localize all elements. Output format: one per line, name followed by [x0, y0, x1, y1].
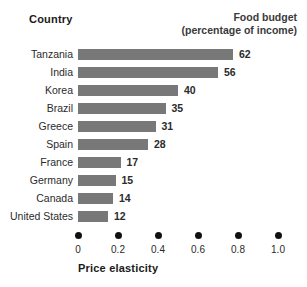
bar-row: Brazil35	[0, 102, 307, 120]
bar	[78, 85, 178, 96]
bar-row: Greece31	[0, 120, 307, 138]
bar-value-label: 62	[239, 48, 251, 61]
bar-row-label: Spain	[0, 138, 73, 151]
bar	[78, 193, 113, 204]
bar-value-label: 31	[162, 120, 174, 133]
axis-tick-dot	[115, 232, 122, 239]
bar	[78, 175, 116, 186]
bar-row-label: Tanzania	[0, 48, 73, 61]
bar-row: India56	[0, 66, 307, 84]
bar-track: 31	[78, 121, 307, 133]
bar-value-label: 28	[154, 138, 166, 151]
column-header-food-budget: Food budget (percentage of income)	[122, 11, 297, 37]
bar	[78, 157, 121, 168]
bar	[78, 49, 233, 60]
bar-track: 28	[78, 139, 307, 151]
bar-track: 17	[78, 157, 307, 169]
bar-value-label: 14	[119, 192, 131, 205]
bar	[78, 121, 156, 132]
bar-row-label: Brazil	[0, 102, 73, 115]
bar-track: 62	[78, 49, 307, 61]
axis-tick-label: 0.6	[191, 244, 205, 256]
bar-track: 12	[78, 211, 307, 223]
bar	[78, 211, 108, 222]
axis-tick-dot	[275, 232, 282, 239]
axis-tick-dot	[235, 232, 242, 239]
bar-row-label: France	[0, 156, 73, 169]
bar-row: Spain28	[0, 138, 307, 156]
x-axis-title: Price elasticity	[78, 262, 158, 274]
axis-tick-dot	[155, 232, 162, 239]
bar-row: France17	[0, 156, 307, 174]
bar-track: 15	[78, 175, 307, 187]
bar-rows: Tanzania62India56Korea40Brazil35Greece31…	[0, 48, 307, 228]
axis-tick-dot	[75, 232, 82, 239]
axis-tick-label: 0	[75, 244, 81, 256]
bar-track: 14	[78, 193, 307, 205]
bar-value-label: 35	[172, 102, 184, 115]
bar-row: Korea40	[0, 84, 307, 102]
bar-track: 40	[78, 85, 307, 97]
food-budget-chart: Country Food budget (percentage of incom…	[0, 0, 307, 287]
bar-row: United States12	[0, 210, 307, 228]
bar-value-label: 12	[114, 210, 126, 223]
bar-row-label: Germany	[0, 174, 73, 187]
bar	[78, 67, 218, 78]
column-header-country: Country	[29, 13, 73, 25]
bar-row-label: Korea	[0, 84, 73, 97]
bar-track: 56	[78, 67, 307, 79]
axis-tick-label: 1.0	[271, 244, 285, 256]
bar-track: 35	[78, 103, 307, 115]
bar	[78, 139, 148, 150]
axis-tick-label: 0.4	[151, 244, 165, 256]
bar-row-label: India	[0, 66, 73, 79]
bar	[78, 103, 166, 114]
bar-row: Tanzania62	[0, 48, 307, 66]
bar-row: Germany15	[0, 174, 307, 192]
x-axis: Price elasticity 00.20.40.60.81.0	[0, 232, 307, 287]
bar-row-label: Canada	[0, 192, 73, 205]
axis-tick-dot	[195, 232, 202, 239]
bar-value-label: 17	[127, 156, 139, 169]
bar-value-label: 15	[122, 174, 134, 187]
bar-row-label: United States	[0, 210, 73, 223]
bar-value-label: 40	[184, 84, 196, 97]
food-budget-title-line1: Food budget	[233, 11, 297, 23]
axis-tick-label: 0.2	[111, 244, 125, 256]
bar-row-label: Greece	[0, 120, 73, 133]
bar-row: Canada14	[0, 192, 307, 210]
bar-value-label: 56	[224, 66, 236, 79]
food-budget-title-line2: (percentage of income)	[122, 24, 297, 37]
axis-tick-label: 0.8	[231, 244, 245, 256]
